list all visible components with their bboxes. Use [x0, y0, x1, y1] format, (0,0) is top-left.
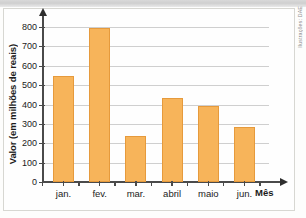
y-tick-label: 0	[32, 177, 37, 187]
gridline	[42, 124, 269, 125]
x-axis-arrow-icon	[280, 178, 288, 186]
y-tick-mark	[39, 124, 45, 125]
y-tick-label: 800	[22, 22, 37, 32]
x-tick-label: mar.	[127, 188, 145, 199]
bar-jan	[53, 76, 74, 182]
x-tick-mark-minor	[223, 181, 224, 186]
x-axis-title: Mês	[255, 187, 273, 198]
gridline	[42, 85, 269, 86]
x-tick-mark	[171, 181, 172, 186]
bar-fev	[89, 28, 110, 182]
gridline	[42, 46, 269, 47]
y-tick-mark	[39, 46, 45, 47]
x-tick-mark-minor	[187, 181, 188, 186]
plot-area: 0100200300400500600700800jan.fev.mar.abr…	[42, 26, 269, 183]
scan-artifact-band	[0, 0, 306, 7]
y-axis-title: Valor (em milhões de reais)	[5, 20, 19, 188]
x-tick-mark	[99, 181, 100, 186]
gridline	[42, 27, 269, 28]
x-tick-mark-minor	[78, 181, 79, 186]
x-tick-mark-minor	[151, 181, 152, 186]
x-tick-label: fev.	[92, 188, 107, 199]
y-tick-label: 100	[22, 158, 37, 168]
x-tick-mark	[244, 181, 245, 186]
x-tick-mark	[208, 181, 209, 186]
y-tick-mark	[39, 143, 45, 144]
y-tick-label: 700	[22, 41, 37, 51]
y-tick-label: 500	[22, 80, 37, 90]
y-tick-label: 300	[22, 119, 37, 129]
gridline	[42, 66, 269, 67]
y-tick-mark	[39, 163, 45, 164]
y-tick-mark	[39, 85, 45, 86]
y-tick-mark	[39, 66, 45, 67]
bar-mar	[125, 136, 146, 182]
scanned-page: Ilustrações: DAE Valor (em milhões de re…	[0, 0, 306, 218]
y-axis-title-text: Valor (em milhões de reais)	[7, 44, 18, 164]
y-tick-label: 600	[22, 61, 37, 71]
x-tick-label: jun.	[237, 188, 252, 199]
bar-chart: Valor (em milhões de reais) 010020030040…	[3, 8, 295, 211]
bar-jun	[234, 127, 255, 182]
x-tick-mark	[63, 181, 64, 186]
illustration-credit-text: Ilustrações: DAE	[297, 6, 303, 48]
x-tick-mark-minor	[42, 181, 43, 186]
bar-maio	[198, 106, 219, 182]
y-tick-label: 400	[22, 100, 37, 110]
y-tick-mark	[39, 27, 45, 28]
x-tick-label: abril	[163, 188, 181, 199]
bar-abril	[162, 98, 183, 182]
x-tick-mark	[135, 181, 136, 186]
y-tick-mark	[39, 105, 45, 106]
x-tick-mark-minor	[114, 181, 115, 186]
y-axis-line	[42, 14, 44, 183]
gridline	[42, 105, 269, 106]
x-tick-label: jan.	[56, 188, 71, 199]
y-tick-label: 200	[22, 138, 37, 148]
x-tick-mark-minor	[259, 181, 260, 186]
y-axis-arrow-icon	[39, 8, 47, 16]
illustration-credit: Ilustrações: DAE	[294, 6, 306, 84]
x-tick-label: maio	[198, 188, 219, 199]
